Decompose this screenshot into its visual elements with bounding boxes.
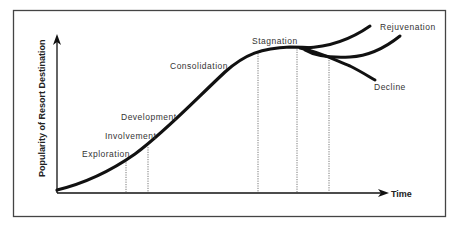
stage-label-involvement: Involvement <box>105 131 156 141</box>
stage-label-decline: Decline <box>374 82 406 92</box>
stage-label-development: Development <box>121 112 177 122</box>
diagram-frame <box>14 11 446 217</box>
stage-label-stagnation: Stagnation <box>252 36 298 46</box>
stage-label-rejuvenation: Rejuvenation <box>380 22 436 32</box>
x-axis-label: Time <box>391 189 412 199</box>
y-axis-label: Popularity of Resort Destination <box>37 39 47 177</box>
stage-label-consolidation: Consolidation <box>170 61 228 71</box>
stage-label-exploration: Exploration <box>82 149 130 159</box>
tourism-life-cycle-diagram: Exploration Involvement Development Cons… <box>0 0 458 225</box>
